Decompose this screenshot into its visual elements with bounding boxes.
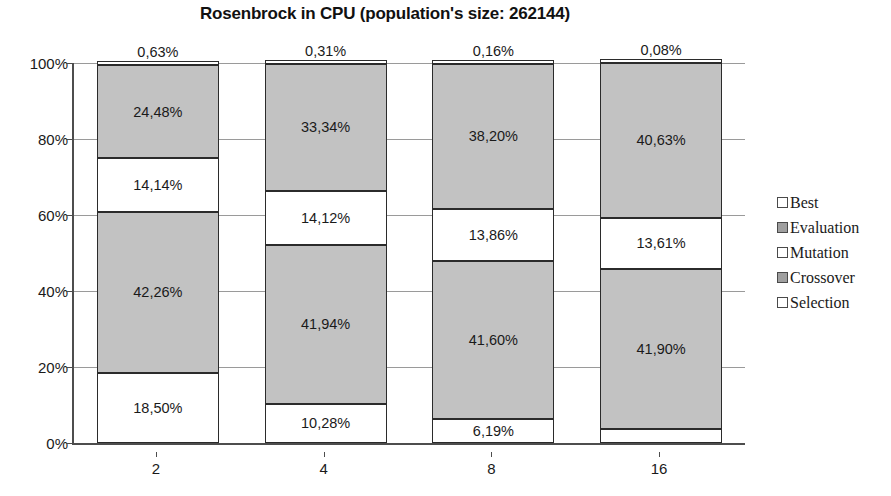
chart-legend: BestEvaluationMutationCrossoverSelection bbox=[777, 190, 889, 315]
chart-title: Rosenbrock in CPU (population's size: 26… bbox=[0, 4, 770, 24]
bar-segment-label: 41,60% bbox=[469, 333, 518, 348]
stacked-bar[interactable]: 6,19%41,60%13,86%38,20%0,16% bbox=[432, 63, 554, 443]
bar-segment-label: 42,26% bbox=[133, 285, 182, 300]
bar-segment-label: 14,12% bbox=[301, 211, 350, 226]
bar-segment-label: 14,14% bbox=[133, 178, 182, 193]
plot-area: 18,50%42,26%14,14%24,48%0,63%10,28%41,94… bbox=[72, 63, 745, 445]
bar-segment[interactable]: 40,63% bbox=[600, 63, 722, 217]
stacked-bar[interactable]: 10,28%41,94%14,12%33,34%0,31% bbox=[265, 63, 387, 443]
bar-segment[interactable]: 41,60% bbox=[432, 261, 554, 419]
x-axis: 24816 bbox=[72, 452, 745, 488]
bar-group: 18,50%42,26%14,14%24,48%0,63% bbox=[74, 63, 242, 443]
bar-segment-label: 18,50% bbox=[133, 401, 182, 416]
legend-item-label: Selection bbox=[790, 294, 850, 312]
legend-item[interactable]: Best bbox=[777, 190, 889, 215]
legend-item[interactable]: Crossover bbox=[777, 265, 889, 290]
bar-segment[interactable]: 41,90% bbox=[600, 269, 722, 428]
bar-segment[interactable]: 3,79% bbox=[600, 429, 722, 443]
bar-segment[interactable]: 14,14% bbox=[97, 158, 219, 212]
bar-group: 3,79%41,90%13,61%40,63%0,08% bbox=[577, 63, 745, 443]
stacked-bar[interactable]: 18,50%42,26%14,14%24,48%0,63% bbox=[97, 63, 219, 443]
x-axis-tick-mark bbox=[491, 452, 492, 457]
bar-segment-label: 0,31% bbox=[305, 44, 346, 59]
bar-segment[interactable]: 42,26% bbox=[97, 212, 219, 373]
x-axis-tick-mark bbox=[156, 452, 157, 457]
bar-segment[interactable]: 10,28% bbox=[265, 404, 387, 443]
bar-segment-label: 0,08% bbox=[641, 43, 682, 58]
legend-swatch-icon bbox=[777, 297, 788, 308]
x-axis-tick-label: 8 bbox=[487, 460, 495, 477]
bar-segment[interactable]: 24,48% bbox=[97, 65, 219, 158]
bar-segment-label: 13,61% bbox=[637, 236, 686, 251]
bar-segment-label: 6,19% bbox=[473, 424, 514, 439]
bar-segment-label: 0,63% bbox=[137, 45, 178, 60]
bar-segment[interactable]: 0,08% bbox=[600, 59, 722, 63]
bar-segment[interactable]: 13,61% bbox=[600, 218, 722, 270]
bar-segment[interactable]: 0,16% bbox=[432, 60, 554, 64]
x-axis-tick-label: 4 bbox=[319, 460, 327, 477]
legend-item[interactable]: Mutation bbox=[777, 240, 889, 265]
legend-swatch-icon bbox=[777, 247, 788, 258]
bar-segment[interactable]: 0,31% bbox=[265, 60, 387, 64]
bar-segment-label: 38,20% bbox=[469, 129, 518, 144]
y-axis-tick-label: 40% bbox=[2, 283, 68, 300]
legend-item-label: Mutation bbox=[790, 244, 849, 262]
bar-segment[interactable]: 13,86% bbox=[432, 209, 554, 262]
y-axis-tick-label: 80% bbox=[2, 131, 68, 148]
legend-swatch-icon bbox=[777, 197, 788, 208]
bar-segment[interactable]: 38,20% bbox=[432, 64, 554, 209]
legend-item-label: Crossover bbox=[790, 269, 855, 287]
bar-segment[interactable]: 33,34% bbox=[265, 64, 387, 191]
bar-segment[interactable]: 14,12% bbox=[265, 191, 387, 245]
legend-item-label: Evaluation bbox=[790, 219, 859, 237]
x-axis-tick-label: 16 bbox=[651, 460, 668, 477]
bar-segment-label: 13,86% bbox=[469, 228, 518, 243]
x-axis-tick-label: 2 bbox=[152, 460, 160, 477]
bar-segment[interactable]: 41,94% bbox=[265, 245, 387, 404]
bar-segment-label: 41,94% bbox=[301, 317, 350, 332]
bar-segment[interactable]: 18,50% bbox=[97, 373, 219, 443]
legend-item[interactable]: Selection bbox=[777, 290, 889, 315]
bar-segment-label: 33,34% bbox=[301, 120, 350, 135]
legend-item[interactable]: Evaluation bbox=[777, 215, 889, 240]
x-axis-tick-mark bbox=[659, 452, 660, 457]
legend-swatch-icon bbox=[777, 222, 788, 233]
y-axis-tick-label: 60% bbox=[2, 207, 68, 224]
y-axis-tick-label: 20% bbox=[2, 359, 68, 376]
bar-group: 6,19%41,60%13,86%38,20%0,16% bbox=[410, 63, 578, 443]
bar-segment[interactable]: 6,19% bbox=[432, 419, 554, 443]
bar-segment-label: 40,63% bbox=[637, 133, 686, 148]
stacked-bar[interactable]: 3,79%41,90%13,61%40,63%0,08% bbox=[600, 63, 722, 443]
legend-item-label: Best bbox=[790, 194, 818, 212]
bar-segment-label: 10,28% bbox=[301, 416, 350, 431]
bar-segment-label: 24,48% bbox=[133, 105, 182, 120]
legend-swatch-icon bbox=[777, 272, 788, 283]
bar-segment-label: 0,16% bbox=[473, 43, 514, 58]
bar-segment[interactable]: 0,63% bbox=[97, 61, 219, 65]
y-axis: 0%20%40%60%80%100% bbox=[0, 63, 68, 445]
y-axis-tick-label: 100% bbox=[2, 55, 68, 72]
y-axis-tick-label: 0% bbox=[2, 435, 68, 452]
x-axis-tick-mark bbox=[324, 452, 325, 457]
bar-segment-label: 41,90% bbox=[637, 342, 686, 357]
chart-container: Rosenbrock in CPU (population's size: 26… bbox=[0, 0, 891, 496]
bar-group: 10,28%41,94%14,12%33,34%0,31% bbox=[242, 63, 410, 443]
